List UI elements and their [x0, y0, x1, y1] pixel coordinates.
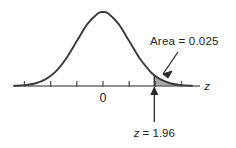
area-callout-arrow	[163, 52, 178, 78]
z-axis-label: z	[203, 80, 210, 92]
z-value-callout-arrow	[150, 86, 158, 122]
figure-canvas: Area = 0.025 0 z z = 1.96	[0, 0, 236, 148]
normal-curve-figure: Area = 0.025 0 z z = 1.96	[0, 0, 236, 148]
z-value-label: z = 1.96	[133, 127, 175, 139]
origin-tick-label: 0	[100, 91, 107, 105]
area-annotation-label: Area = 0.025	[150, 35, 219, 47]
z-value-number: = 1.96	[139, 127, 175, 139]
